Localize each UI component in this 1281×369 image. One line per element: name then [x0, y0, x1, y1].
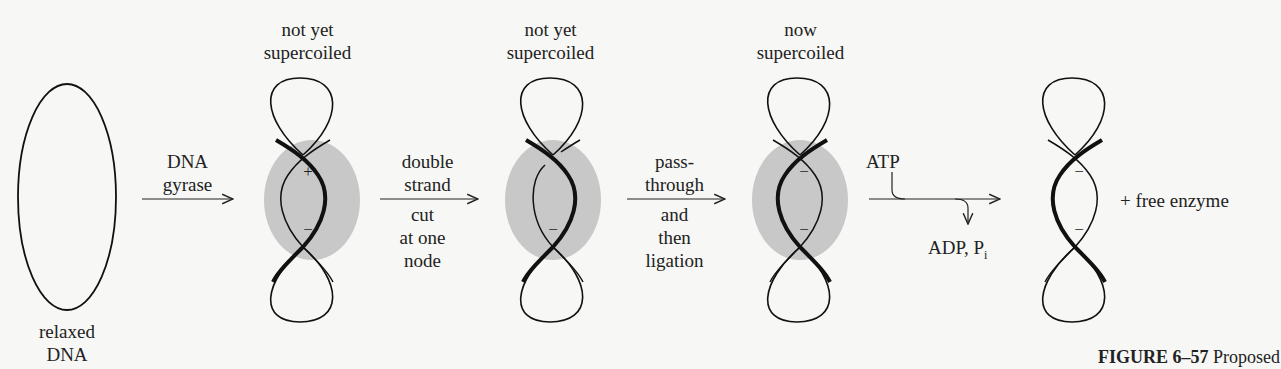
step3-label-above: pass-through — [627, 150, 722, 196]
sign-minus: − — [1072, 160, 1086, 183]
arrow-atp-hydrolysis — [869, 172, 1000, 224]
sign-minus: − — [301, 218, 315, 241]
gyrase-enzyme-blob — [264, 140, 360, 260]
atp-label: ATP — [866, 150, 916, 173]
dna-released — [1043, 78, 1105, 322]
sign-plus: + — [301, 160, 315, 183]
state-supercoiled-label: nowsupercoiled — [743, 18, 858, 64]
dna-bound-gyrase — [264, 78, 360, 322]
state-cut-label: not yetsupercoiled — [493, 18, 608, 64]
sign-minus: − — [1072, 218, 1086, 241]
sign-minus: − — [797, 218, 811, 241]
adp-label: ADP, Pi — [928, 236, 1018, 267]
figure-caption: FIGURE 6–57 Proposed — [1098, 346, 1280, 369]
step2-label-above: doublestrand — [380, 150, 475, 196]
relaxed-label: relaxedDNA — [22, 320, 112, 366]
relaxed-dna-loop — [18, 84, 116, 310]
step2-label-below: cutat onenode — [380, 203, 465, 272]
dna-cut-state — [505, 78, 601, 322]
state-bound-label: not yetsupercoiled — [250, 18, 365, 64]
sign-minus: − — [797, 160, 811, 183]
step1-label: DNAgyrase — [145, 150, 230, 196]
sign-minus: − — [546, 218, 560, 241]
free-enzyme-label: + free enzyme — [1120, 189, 1280, 212]
step3-label-below: andthenligation — [627, 203, 722, 272]
dna-now-supercoiled — [752, 78, 848, 322]
